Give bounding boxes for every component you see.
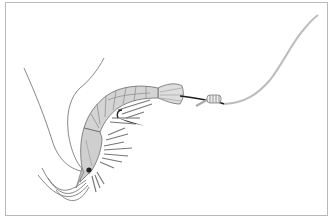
shrimp-eye — [86, 167, 91, 172]
shrimp-on-hook-illustration — [0, 0, 333, 221]
fishing-line — [224, 15, 318, 104]
shrimp — [76, 84, 183, 188]
line-knot — [196, 95, 221, 106]
